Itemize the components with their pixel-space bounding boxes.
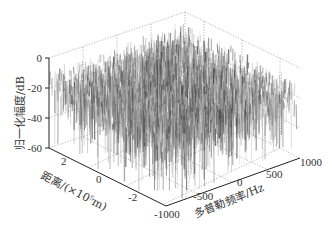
- y-tick-2: -2: [128, 191, 137, 203]
- z-tick-1: -20: [27, 82, 42, 94]
- y-tick-0: 2: [61, 155, 67, 167]
- x-tick-2: 0: [237, 176, 243, 188]
- z-tick-2: -40: [27, 112, 42, 124]
- z-tick-3: -60: [27, 142, 42, 154]
- surface-plot-3d: 0 -20 -40 -60 归一化幅度/dB 2 0 -2 距离/(×10⁵m)…: [0, 0, 332, 231]
- z-tick-0: 0: [37, 52, 43, 64]
- x-tick-1: -500: [193, 190, 214, 202]
- x-tick-0: -1000: [154, 208, 180, 220]
- z-axis-label: 归一化幅度/dB: [13, 76, 27, 150]
- x-tick-4: 1000: [300, 156, 323, 168]
- y-tick-1: 0: [96, 173, 102, 185]
- x-tick-3: 500: [266, 168, 283, 180]
